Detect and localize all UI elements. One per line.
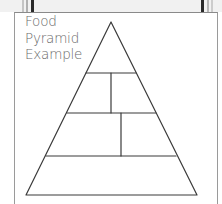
food-pyramid-diagram [0, 0, 222, 204]
